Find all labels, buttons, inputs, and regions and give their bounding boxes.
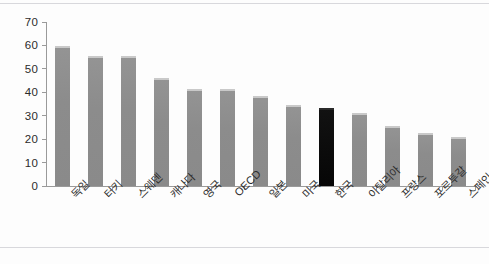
bar	[88, 56, 103, 186]
plot-area: 010203040506070	[46, 22, 475, 186]
scan-border-top	[0, 3, 489, 4]
y-axis-tick: 70	[25, 16, 46, 28]
y-axis-tick: 50	[25, 63, 46, 75]
bar	[286, 105, 301, 186]
x-axis-label: 한국	[331, 190, 342, 201]
x-axis-label: 영국	[199, 190, 210, 201]
x-axis-label: 독일	[67, 190, 78, 201]
x-axis-label: 캐나다	[166, 190, 177, 201]
y-axis-tick-label: 60	[25, 39, 42, 51]
y-axis-tick: 20	[25, 133, 46, 145]
y-axis-tick-label: 70	[25, 16, 42, 28]
bar	[352, 113, 367, 186]
x-axis-label: 포르투갈	[430, 190, 441, 201]
y-axis-tick-label: 30	[25, 110, 42, 122]
bar-top-cap	[220, 89, 235, 91]
y-axis-tick-label: 40	[25, 86, 42, 98]
bar-top-cap	[451, 137, 466, 139]
x-axis-label: OECD	[232, 190, 240, 198]
x-axis-label: 프랑스	[397, 190, 408, 201]
bar-top-cap	[121, 56, 136, 58]
bar-top-cap	[385, 126, 400, 128]
x-axis-label: 일본	[265, 190, 276, 201]
bar-top-cap	[253, 96, 268, 98]
x-axis-label: 스페인	[463, 190, 474, 201]
y-axis-tick: 0	[31, 180, 46, 192]
bar-top-cap	[352, 113, 367, 115]
bar-top-cap	[88, 56, 103, 58]
x-axis-label: 이탈리아	[364, 190, 375, 201]
y-axis-tick-label: 10	[25, 157, 42, 169]
bar	[319, 108, 334, 186]
y-axis-tick: 40	[25, 86, 46, 98]
y-axis-tick-label: 50	[25, 63, 42, 75]
bar-top-cap	[154, 78, 169, 80]
bar-series	[46, 22, 475, 186]
y-axis-tick: 30	[25, 110, 46, 122]
bar	[121, 56, 136, 186]
x-axis-label: 스웨덴	[133, 190, 144, 201]
bar-top-cap	[286, 105, 301, 107]
bar-top-cap	[187, 89, 202, 91]
y-axis-tick: 10	[25, 157, 46, 169]
bar	[220, 89, 235, 186]
y-axis-tick-label: 0	[31, 180, 42, 192]
x-axis-label: 터키	[100, 190, 111, 201]
y-axis-tick: 60	[25, 39, 46, 51]
bar-top-cap	[55, 46, 70, 48]
chart-canvas: 010203040506070 독일터키스웨덴캐나다영국OECD일본미국한국이탈…	[0, 0, 489, 264]
bar-top-cap	[418, 133, 433, 135]
bar	[55, 46, 70, 186]
y-axis-tick-label: 20	[25, 133, 42, 145]
bar-top-cap	[319, 108, 334, 110]
x-axis-label: 미국	[298, 190, 309, 201]
scan-border-bottom	[0, 247, 489, 248]
